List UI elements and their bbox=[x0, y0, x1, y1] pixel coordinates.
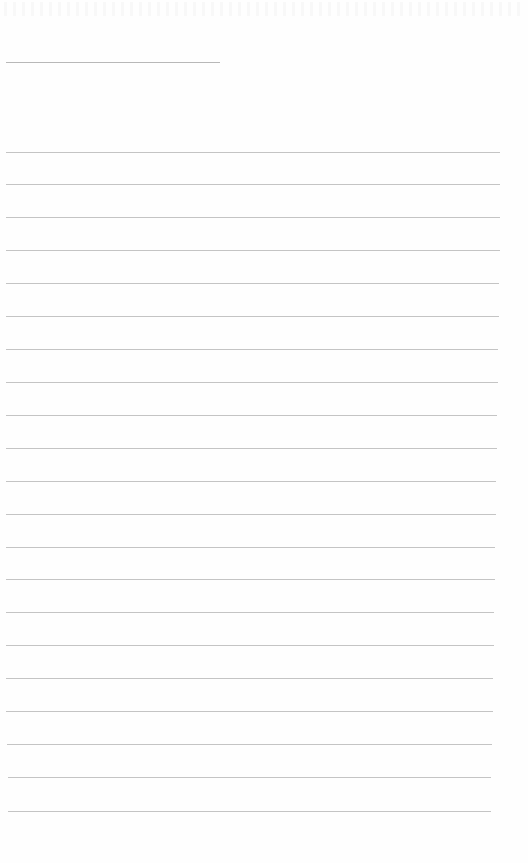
ruled-line bbox=[6, 349, 498, 350]
ruled-line bbox=[6, 217, 500, 218]
ruled-line bbox=[6, 514, 496, 515]
ruled-line bbox=[6, 579, 495, 580]
title-line bbox=[6, 62, 220, 63]
ruled-line bbox=[6, 678, 493, 679]
ruled-line bbox=[6, 184, 500, 185]
notebook-page bbox=[0, 0, 528, 863]
ruled-line bbox=[6, 481, 496, 482]
ruled-line bbox=[6, 316, 499, 317]
ruled-line bbox=[6, 547, 495, 548]
ruled-line bbox=[7, 744, 492, 745]
bleed-through-artifact bbox=[4, 2, 524, 16]
ruled-line bbox=[8, 811, 491, 812]
ruled-line bbox=[8, 777, 491, 778]
ruled-line bbox=[6, 448, 497, 449]
ruled-line bbox=[6, 711, 493, 712]
ruled-line bbox=[6, 152, 500, 153]
ruled-line bbox=[6, 415, 497, 416]
ruled-line bbox=[6, 645, 494, 646]
ruled-line bbox=[6, 612, 494, 613]
ruled-line bbox=[6, 382, 498, 383]
ruled-line bbox=[6, 250, 500, 251]
ruled-line bbox=[6, 283, 499, 284]
